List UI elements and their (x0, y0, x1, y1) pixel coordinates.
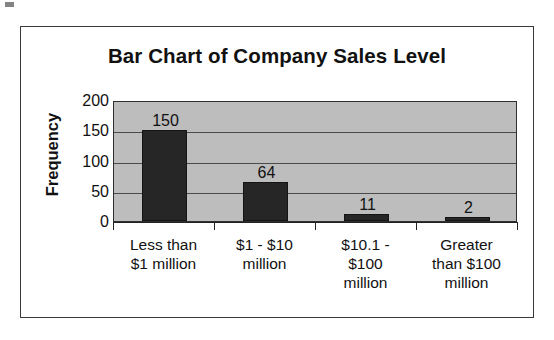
y-axis-tick-label: 150 (69, 123, 109, 139)
x-axis-category-label-line: Greater (418, 236, 515, 255)
scan-artifact (5, 2, 14, 7)
bar (243, 182, 288, 221)
bar-value-label: 11 (359, 197, 376, 213)
y-axis-tick-label: 200 (69, 93, 109, 109)
x-axis-category-label-line: than $100 (418, 255, 515, 274)
x-axis-category-label-line: million (216, 255, 313, 274)
x-axis-category-label-line: $10.1 - (317, 236, 414, 255)
bar-value-label: 2 (464, 200, 473, 216)
x-axis-tick-mark (416, 222, 417, 230)
y-axis-tick-labels: 200150100500 (69, 101, 109, 222)
x-axis-tick-mark (517, 222, 518, 230)
x-axis-tick-mark (315, 222, 316, 230)
x-axis-tick-mark (214, 222, 215, 230)
bar (142, 130, 187, 221)
x-axis-category-labels: Less than$1 million$1 - $10million$10.1 … (113, 236, 517, 293)
y-axis-tick-label: 100 (69, 154, 109, 170)
x-axis-category-label-line: $1 million (115, 255, 212, 274)
x-axis-category-label-line: million (418, 274, 515, 293)
x-axis-category-label: $1 - $10million (214, 236, 315, 293)
figure-page: Bar Chart of Company Sales Level Frequen… (0, 0, 554, 340)
y-axis-title: Frequency (43, 100, 62, 210)
x-axis-category-label-line: $1 - $10 (216, 236, 313, 255)
x-axis-category-label: Greaterthan $100million (416, 236, 517, 293)
x-axis-category-label: $10.1 -$100million (315, 236, 416, 293)
x-axis-category-label: Less than$1 million (113, 236, 214, 293)
y-axis-tick-label: 50 (69, 184, 109, 200)
x-axis-category-label-line: Less than (115, 236, 212, 255)
x-axis-category-label-line: $100 (317, 255, 414, 274)
bar (445, 217, 490, 221)
y-axis-tick-label: 0 (69, 214, 109, 230)
bar-value-label: 150 (152, 113, 179, 129)
chart-title: Bar Chart of Company Sales Level (21, 44, 533, 68)
bar-value-label: 64 (258, 165, 276, 181)
x-axis-category-label-line: million (317, 274, 414, 293)
chart-figure-frame: Bar Chart of Company Sales Level Frequen… (20, 26, 534, 318)
x-axis-tick-mark (113, 222, 114, 230)
bar (344, 214, 389, 221)
